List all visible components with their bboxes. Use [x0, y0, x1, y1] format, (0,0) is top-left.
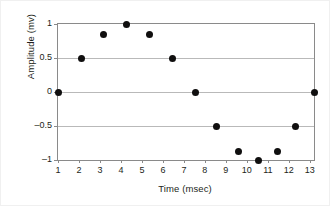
y-axis-tick: [54, 58, 58, 59]
x-axis-tick: [184, 160, 185, 163]
x-axis-tick: [79, 160, 80, 163]
data-point: [255, 157, 262, 164]
data-point: [78, 55, 85, 62]
x-axis-tick: [58, 160, 59, 163]
plot-area: –1–0.500.51 12345678910111213: [57, 23, 315, 161]
x-axis-tick: [100, 160, 101, 163]
data-point: [55, 89, 62, 96]
data-point: [311, 89, 318, 96]
chart-figure: Amplitude (mv) –1–0.500.51 1234567891011…: [0, 0, 330, 206]
gridline: [58, 92, 314, 93]
x-axis-tick: [121, 160, 122, 163]
data-point: [192, 89, 199, 96]
data-point: [213, 123, 220, 130]
data-point: [274, 148, 281, 155]
y-axis-tick-label: 1: [24, 18, 52, 28]
gridline: [58, 58, 314, 59]
x-axis-tick: [163, 160, 164, 163]
data-point: [292, 123, 299, 130]
y-axis-tick-label: 0: [24, 86, 52, 96]
data-point: [146, 31, 153, 38]
x-axis-tick: [268, 160, 269, 163]
data-point: [235, 148, 242, 155]
y-axis-tick: [54, 24, 58, 25]
y-axis-tick-label: 0.5: [24, 52, 52, 62]
x-axis-tick-label: 13: [298, 165, 322, 175]
x-axis-tick: [142, 160, 143, 163]
x-axis-tick: [226, 160, 227, 163]
x-axis-label: Time (msec): [57, 183, 313, 194]
x-axis-tick: [247, 160, 248, 163]
data-point: [123, 21, 130, 28]
x-axis-tick: [289, 160, 290, 163]
y-axis-tick-label: –0.5: [24, 120, 52, 130]
data-point: [100, 31, 107, 38]
gridline: [58, 126, 314, 127]
y-axis-tick: [54, 126, 58, 127]
x-axis-tick: [205, 160, 206, 163]
y-axis-tick-label: –1: [24, 154, 52, 164]
x-axis-tick: [310, 160, 311, 163]
data-point: [169, 55, 176, 62]
